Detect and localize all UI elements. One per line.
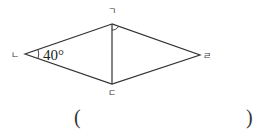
answer-open-paren: ( [74, 106, 81, 129]
vertex-label-right: ㄹ [203, 51, 211, 61]
angle-arc-top [112, 26, 119, 30]
angle-label: 40° [43, 47, 64, 63]
vertex-label-left: ㄴ [11, 50, 19, 60]
angle-arc-left [38, 50, 39, 59]
vertex-label-bottom: ㄷ [108, 88, 116, 98]
rhombus-diagram: ㄱ ㄴ ㄷ ㄹ 40° [0, 0, 257, 134]
answer-close-paren: ) [246, 106, 253, 129]
vertex-label-top: ㄱ [108, 6, 116, 16]
